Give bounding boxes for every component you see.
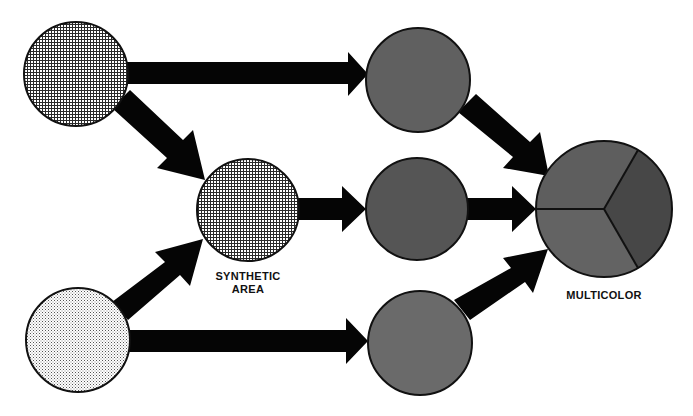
arrow-bottom-to-synthetic [112,239,203,320]
arrow-color-middle-to-multicolor [464,186,536,232]
arrow-synthetic-to-color-middle [294,186,366,232]
synthetic-label-line2: AREA [198,283,298,296]
color-mixing-diagram [0,0,693,416]
input-circle-bottom [26,288,130,392]
synthetic-area-label: SYNTHETIC AREA [198,270,298,296]
color-circle-bottom [368,291,472,395]
arrow-color-bottom-to-multicolor [454,249,548,320]
input-circle-top [24,22,128,126]
arrow-top-to-synthetic [112,90,205,180]
color-circle-middle [366,158,468,260]
multicolor-label-text: MULTICOLOR [554,289,654,302]
synthetic-label-line1: SYNTHETIC [198,270,298,283]
synthetic-area-circle [197,159,299,261]
multicolor-pie [536,141,672,277]
arrow-color-top-to-multicolor [458,94,549,176]
multicolor-label: MULTICOLOR [554,289,654,302]
arrows [112,52,549,364]
color-circle-top [366,28,470,132]
arrow-top-to-color-top [120,52,368,96]
arrow-bottom-to-color-bottom [120,318,368,364]
